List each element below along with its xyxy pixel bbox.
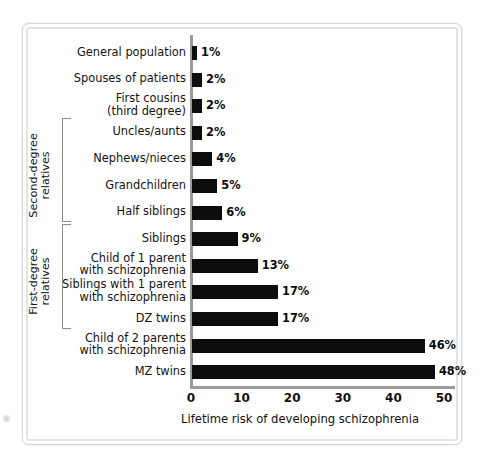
bar [192,152,212,166]
bar [192,99,202,113]
bar-value-label: 13% [262,258,289,272]
bar-row: Siblings9% [0,226,484,253]
bar [192,179,217,193]
x-axis-tick-label: 0 [171,391,211,405]
group-label: First-degree relatives [28,212,53,352]
bar-row: DZ twins17% [0,306,484,333]
bar-value-label: 2% [206,125,225,139]
bar-value-label: 48% [439,364,466,378]
bar-row: Spouses of patients2% [0,67,484,94]
bar [192,73,202,87]
bar-value-label: 2% [206,72,225,86]
bar [192,312,278,326]
bar-chart-plot: General population1%Spouses of patients2… [0,0,484,462]
bar-row: Siblings with 1 parent with schizophreni… [0,279,484,306]
bar-value-label: 17% [282,311,309,325]
bar-value-label: 5% [221,178,240,192]
bar-value-label: 46% [429,338,456,352]
figure-page: General population1%Spouses of patients2… [0,0,484,462]
x-axis-title: Lifetime risk of developing schizophreni… [140,412,460,426]
bar [192,339,425,353]
bar-row: Nephews/nieces4% [0,146,484,173]
bar-value-label: 1% [201,45,220,59]
bar-value-label: 2% [206,98,225,112]
bar [192,285,278,299]
bar-row: First cousins (third degree)2% [0,93,484,120]
bar [192,46,197,60]
bar-row: Half siblings6% [0,200,484,227]
x-axis-tick-label: 40 [373,391,413,405]
bar-value-label: 4% [216,151,235,165]
bar [192,232,238,246]
bar-value-label: 17% [282,284,309,298]
bar [192,126,202,140]
bar-category-label: Spouses of patients [16,72,186,85]
x-axis-tick-label: 50 [424,391,464,405]
bar-row: MZ twins48% [0,359,484,386]
x-axis-tick-label: 30 [323,391,363,405]
bar [192,206,222,220]
group-bracket [62,224,71,328]
bar-row: Uncles/aunts2% [0,120,484,147]
x-axis-line [190,386,455,389]
x-axis-tick-label: 10 [222,391,262,405]
group-bracket [62,118,71,222]
bar-row: General population1% [0,40,484,67]
bar [192,259,258,273]
bar-row: Grandchildren5% [0,173,484,200]
bar-category-label: General population [16,46,186,59]
x-axis-tick-label: 20 [272,391,312,405]
bar-category-label: MZ twins [16,365,186,378]
bar-value-label: 6% [226,205,245,219]
bar-row: Child of 2 parents with schizophrenia46% [0,333,484,360]
bar [192,365,435,379]
bar-row: Child of 1 parent with schizophrenia13% [0,253,484,280]
bar-value-label: 9% [242,231,261,245]
